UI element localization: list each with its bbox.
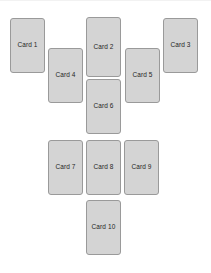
card[interactable]: Card 8	[86, 140, 121, 195]
card-label: Card 7	[55, 164, 75, 171]
card[interactable]: Card 2	[86, 17, 121, 77]
card[interactable]: Card 9	[124, 140, 159, 195]
card-label: Card 2	[93, 43, 113, 50]
card-label: Card 4	[55, 72, 75, 79]
card[interactable]: Card 4	[48, 48, 83, 103]
card-label: Card 8	[93, 164, 113, 171]
card[interactable]: Card 7	[48, 140, 83, 195]
card-label: Card 6	[93, 103, 113, 110]
card-label: Card 3	[170, 42, 190, 49]
card-layout-canvas: Card 1Card 2Card 3Card 4Card 5Card 6Card…	[0, 0, 211, 273]
card-label: Card 10	[92, 224, 116, 231]
card[interactable]: Card 3	[163, 18, 198, 73]
card[interactable]: Card 6	[86, 79, 121, 134]
card[interactable]: Card 10	[86, 200, 121, 255]
top-edge-hairline	[0, 0, 211, 1]
card[interactable]: Card 1	[10, 18, 45, 73]
card[interactable]: Card 5	[125, 48, 160, 103]
card-label: Card 9	[131, 164, 151, 171]
card-label: Card 1	[17, 42, 37, 49]
card-label: Card 5	[132, 72, 152, 79]
